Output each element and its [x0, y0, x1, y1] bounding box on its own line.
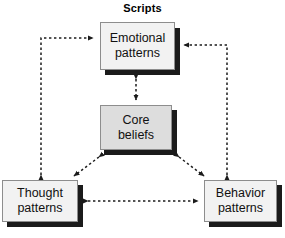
connector-behavior-emotional: [184, 45, 227, 175]
node-core-beliefs[interactable]: Core beliefs: [100, 105, 172, 150]
node-behavior-patterns[interactable]: Behavior patterns: [204, 180, 277, 222]
node-emotional-line1: Emotional: [110, 31, 166, 46]
node-thought-line2: patterns: [17, 201, 62, 216]
node-core-line1: Core: [122, 113, 149, 128]
node-core-line2: beliefs: [118, 128, 154, 143]
node-behavior-line2: patterns: [218, 201, 263, 216]
connector-core-behavior: [179, 157, 204, 176]
node-thought-patterns[interactable]: Thought patterns: [2, 180, 78, 222]
node-emotional-patterns[interactable]: Emotional patterns: [100, 22, 175, 70]
connector-thought-emotional: [41, 38, 93, 175]
node-thought-line1: Thought: [17, 186, 63, 201]
node-behavior-line1: Behavior: [216, 186, 265, 201]
connector-core-thought: [74, 157, 99, 176]
node-emotional-line2: patterns: [115, 46, 160, 61]
